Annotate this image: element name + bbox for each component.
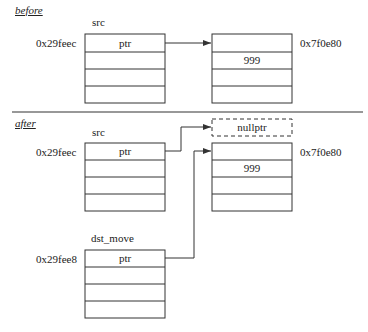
after-heap-box [212, 143, 292, 211]
dst-move-ptr-cell: ptr [119, 252, 132, 264]
dst-move-address: 0x29fee8 [36, 253, 77, 265]
after-src-ptr-cell: ptr [119, 145, 132, 157]
before-src-ptr-cell: ptr [119, 37, 132, 49]
after-heap-address: 0x7f0e80 [300, 146, 342, 158]
after-src-name: src [92, 126, 105, 138]
src-to-nullptr-arrow [165, 127, 211, 151]
nullptr-label: nullptr [237, 121, 267, 133]
before-heap-address: 0x7f0e80 [300, 37, 342, 49]
dst-move-to-heap-arrow [165, 151, 211, 258]
after-heap-value-cell: 999 [244, 162, 261, 174]
before-section-label: before [15, 4, 43, 16]
after-src-address: 0x29feec [36, 146, 76, 158]
before-heap-box [212, 34, 292, 103]
before-src-address: 0x29feec [36, 37, 76, 49]
dst-move-name: dst_move [91, 232, 134, 244]
diagram-canvas: ptr 999 nullptr ptr 999 ptr [0, 0, 368, 332]
before-src-name: src [92, 16, 105, 28]
before-heap-value-cell: 999 [244, 54, 261, 66]
after-section-label: after [15, 117, 36, 129]
